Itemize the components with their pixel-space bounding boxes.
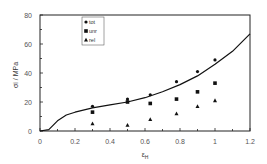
marker-tot xyxy=(196,70,199,73)
x-tick-label: 1 xyxy=(213,138,217,145)
marker-tot xyxy=(91,105,94,108)
x-tick-label: 0.2 xyxy=(70,138,80,145)
marker-unr xyxy=(126,100,130,104)
x-tick-label: 0.8 xyxy=(175,138,185,145)
y-tick-label: 20 xyxy=(24,99,32,106)
marker-unr xyxy=(148,102,152,106)
legend-marker-tot xyxy=(84,20,87,23)
legend-label-unr: unr xyxy=(89,28,97,34)
marker-unr xyxy=(175,97,179,101)
chart: 00.20.40.60.811.2020406080 totunrrel εHσ… xyxy=(0,0,267,164)
marker-rel xyxy=(196,104,200,108)
marker-unr xyxy=(91,110,95,114)
marker-unr xyxy=(213,81,217,85)
y-tick-label: 40 xyxy=(24,70,32,77)
marker-unr xyxy=(196,90,200,94)
x-axis-label: εH xyxy=(142,151,149,160)
marker-rel xyxy=(148,117,152,121)
x-tick-label: 0.6 xyxy=(140,138,150,145)
plot-frame: 00.20.40.60.811.2020406080 xyxy=(24,12,255,146)
legend-marker-unr xyxy=(84,29,88,33)
x-tick-label: 0.4 xyxy=(105,138,115,145)
y-tick-label: 0 xyxy=(28,128,32,135)
model-curve-path xyxy=(40,34,250,131)
x-tick-label: 1.2 xyxy=(245,138,255,145)
x-tick-label: 0 xyxy=(38,138,42,145)
model-curve xyxy=(40,34,250,131)
marker-tot xyxy=(175,80,178,83)
marker-tot xyxy=(213,58,216,61)
marker-tot xyxy=(149,93,152,96)
marker-rel xyxy=(175,111,179,115)
marker-rel xyxy=(213,98,217,102)
legend: totunrrel xyxy=(82,17,104,45)
y-axis-label: σi / MPa xyxy=(12,62,19,88)
legend-label-rel: rel xyxy=(89,37,95,43)
legend-label-tot: tot xyxy=(89,19,96,25)
marker-rel xyxy=(91,122,95,126)
y-tick-label: 60 xyxy=(24,41,32,48)
data-points xyxy=(91,58,218,126)
y-tick-label: 80 xyxy=(24,12,32,19)
marker-rel xyxy=(126,123,130,127)
